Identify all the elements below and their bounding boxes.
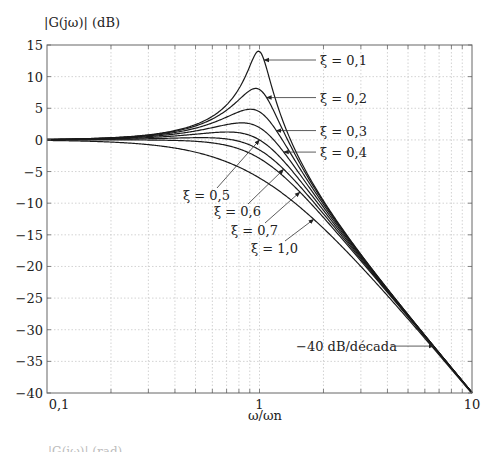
annotation-label: ξ = 0,1 xyxy=(320,53,367,68)
y-tick-label: 15 xyxy=(26,38,43,53)
y-tick-label: −40 xyxy=(16,386,43,401)
annotation-label: ξ = 0,2 xyxy=(320,91,367,106)
x-tick-label: 10 xyxy=(464,397,481,412)
y-tick-label: 10 xyxy=(26,70,43,85)
annotation-label: ξ = 0,3 xyxy=(320,124,367,139)
curve-zeta-0-4 xyxy=(47,123,472,393)
annotation-label: ξ = 1,0 xyxy=(251,241,298,256)
annotation-arrow xyxy=(217,140,260,188)
y-axis-label: |G(jω)| (dB) xyxy=(44,15,120,30)
annotation-label: −40 dB/década xyxy=(296,339,397,354)
y-tick-label: −15 xyxy=(16,228,43,243)
y-tick-label: 0 xyxy=(35,133,43,148)
annotation-label: ξ = 0,4 xyxy=(320,145,367,160)
annotation-label: ξ = 0,6 xyxy=(214,204,261,219)
bode-magnitude-chart: ξ = 0,1ξ = 0,2ξ = 0,3ξ = 0,4ξ = 0,5ξ = 0… xyxy=(0,0,496,452)
y-tick-label: −20 xyxy=(16,259,43,274)
y-tick-label: −10 xyxy=(16,196,43,211)
plot-frame xyxy=(47,45,472,393)
x-tick-label: 0,1 xyxy=(49,397,70,412)
annotation-arrow xyxy=(285,219,314,241)
y-tick-label: −5 xyxy=(24,165,43,180)
y-tick-label: −30 xyxy=(16,323,43,338)
cut-off-caption: |G(jω)| (rad) xyxy=(48,444,122,452)
annotation-label: ξ = 0,7 xyxy=(231,223,278,238)
x-axis-label: ω/ωn xyxy=(248,408,283,423)
y-tick-label: 5 xyxy=(35,101,43,116)
y-tick-label: −35 xyxy=(16,354,43,369)
grid-lines xyxy=(47,45,472,393)
curve-annotations: ξ = 0,1ξ = 0,2ξ = 0,3ξ = 0,4ξ = 0,5ξ = 0… xyxy=(183,53,434,354)
annotation-arrow xyxy=(265,192,300,223)
annotation-label: ξ = 0,5 xyxy=(183,188,230,203)
y-tick-label: −25 xyxy=(16,291,43,306)
